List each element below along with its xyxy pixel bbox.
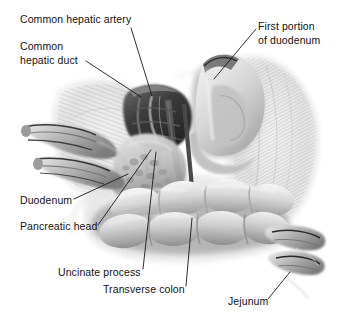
label-pancreatic-head: Pancreatic head [20, 220, 97, 234]
label-uncinate-process: Uncinate process [58, 266, 141, 280]
label-common-hepatic-duct: Commonhepatic duct [20, 40, 78, 67]
leader-jejunum [268, 272, 290, 299]
label-common-hepatic-duct-line1: Common [20, 40, 63, 52]
leader-pancreatic-head [98, 150, 151, 225]
leader-common-hepatic-artery [131, 28, 152, 96]
leader-first-portion-of-duodenum [214, 29, 256, 79]
leader-common-hepatic-duct [86, 61, 141, 97]
label-first-portion-of-duodenum: First portionof duodenum [258, 20, 320, 47]
leader-uncinate-process [143, 152, 156, 269]
label-duodenum: Duodenum [20, 194, 72, 208]
leader-transverse-colon [186, 218, 192, 286]
leader-duodenum [74, 174, 128, 199]
label-jejunum: Jejunum [228, 295, 268, 309]
anatomical-figure: Common hepatic artery Commonhepatic duct… [0, 0, 338, 323]
label-transverse-colon: Transverse colon [103, 283, 185, 297]
label-common-hepatic-duct-line2: hepatic duct [20, 54, 78, 66]
label-first-portion-of-duodenum-line2: of duodenum [258, 34, 320, 46]
label-first-portion-of-duodenum-line1: First portion [258, 20, 315, 32]
label-common-hepatic-artery: Common hepatic artery [20, 13, 131, 27]
